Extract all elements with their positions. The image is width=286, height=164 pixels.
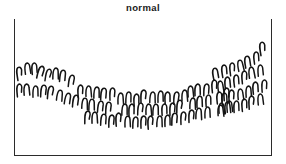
data-point-mark [216, 103, 224, 118]
data-point-mark [99, 112, 107, 127]
data-point-mark [164, 114, 171, 129]
data-point-mark [180, 111, 187, 126]
chart-title: normal [0, 2, 286, 14]
data-point-mark [23, 83, 31, 99]
data-point-mark [62, 91, 71, 107]
data-point-mark [55, 88, 64, 103]
normal-plot-figure: normal [0, 0, 286, 164]
data-point-mark [204, 106, 211, 121]
data-point-mark [188, 109, 195, 124]
data-point-mark [256, 92, 264, 107]
data-point-mark [131, 116, 138, 131]
data-point-mark [260, 79, 267, 94]
data-point-mark [256, 63, 264, 78]
data-point-mark [47, 85, 56, 101]
data-point-mark [258, 41, 267, 57]
data-point-mark [91, 111, 98, 126]
data-point-mark [232, 100, 239, 115]
data-point-mark [171, 112, 179, 128]
data-point-mark [140, 115, 147, 130]
data-point-mark [248, 66, 257, 82]
data-point-mark [83, 109, 91, 124]
data-point-mark [107, 113, 115, 128]
data-point-mark [240, 97, 248, 112]
plot-data-area [14, 19, 272, 156]
data-point-mark [67, 73, 76, 88]
data-point-mark [195, 107, 203, 123]
data-point-mark [124, 115, 131, 130]
data-point-mark [232, 73, 240, 88]
data-point-mark [248, 95, 256, 111]
data-point-mark [147, 115, 155, 131]
data-point-mark [32, 85, 39, 100]
data-point-mark [109, 87, 116, 102]
data-point-mark [59, 69, 68, 85]
data-point-mark [155, 115, 162, 130]
